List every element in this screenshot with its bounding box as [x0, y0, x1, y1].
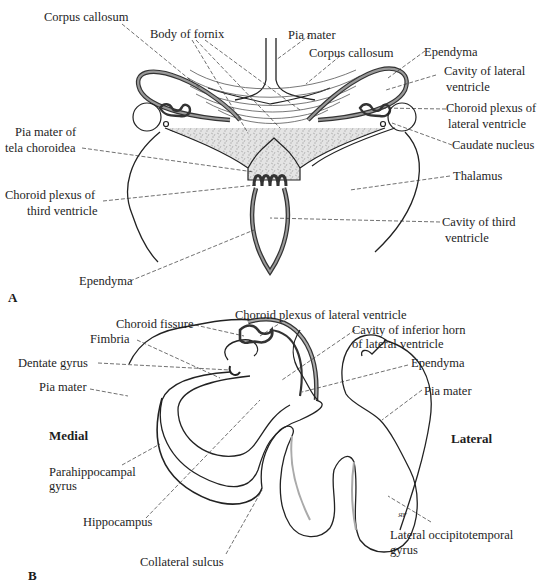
label-corpus-callosum-right: Corpus callosum	[309, 46, 393, 60]
panel-letter-a: A	[8, 290, 17, 306]
label-pia-mater-left: Pia mater	[39, 380, 87, 394]
label-cavity-lateral-ventricle-1: Cavity of lateral	[444, 64, 525, 78]
label-cavity-third-1: Cavity of third	[442, 215, 516, 229]
label-choroid-fissure: Choroid fissure	[116, 317, 193, 331]
label-dentate-gyrus: Dentate gyrus	[18, 356, 88, 370]
label-choroid-plexus-lateral-2: lateral ventricle	[448, 117, 526, 131]
label-choroid-plexus-lateral-ventricle: Choroid plexus of lateral ventricle	[235, 308, 406, 322]
panel-letter-b: B	[28, 568, 37, 584]
label-ependyma: Ependyma	[411, 356, 464, 370]
label-parahippocampal-2: gyrus	[49, 479, 77, 493]
label-caudate-nucleus: Caudate nucleus	[452, 138, 534, 152]
label-choroid-plexus-third-2: third ventricle	[27, 204, 97, 218]
label-lateral-occipitotemporal-1: Lateral occipitotemporal	[390, 528, 513, 542]
label-pia-mater-right: Pia mater	[424, 384, 472, 398]
label-choroid-plexus-third-1: Choroid plexus of	[5, 188, 95, 202]
artist-signature: ЯF	[398, 511, 407, 519]
label-cavity-third-2: ventricle	[445, 231, 489, 245]
label-body-of-fornix: Body of fornix	[150, 27, 224, 41]
label-pia-mater-tela-1: Pia mater of	[15, 125, 76, 139]
label-pia-mater-tela-2: tela choroidea	[5, 141, 75, 155]
label-medial: Medial	[49, 429, 88, 443]
label-pia-mater: Pia mater	[288, 28, 336, 42]
label-fimbria: Fimbria	[90, 332, 130, 346]
label-lateral-occipitotemporal-2: gyrus	[390, 543, 418, 557]
label-corpus-callosum-left: Corpus callosum	[44, 10, 128, 24]
label-ependyma-bottom: Ependyma	[79, 274, 132, 288]
label-choroid-plexus-lateral-1: Choroid plexus of	[446, 101, 536, 115]
panel-a-drawing	[128, 38, 420, 272]
label-parahippocampal-1: Parahippocampal	[49, 465, 136, 479]
label-cavity-inferior-horn-1: Cavity of inferior horn	[352, 323, 466, 337]
label-lateral: Lateral	[451, 432, 492, 446]
label-thalamus: Thalamus	[453, 169, 502, 183]
label-cavity-inferior-horn-2: of lateral ventricle	[352, 337, 444, 351]
label-collateral-sulcus: Collateral sulcus	[140, 555, 224, 569]
label-ependyma-top: Ependyma	[424, 45, 477, 59]
panel-b-drawing	[129, 319, 431, 552]
label-cavity-lateral-ventricle-2: ventricle	[446, 80, 490, 94]
label-hippocampus: Hippocampus	[83, 515, 152, 529]
